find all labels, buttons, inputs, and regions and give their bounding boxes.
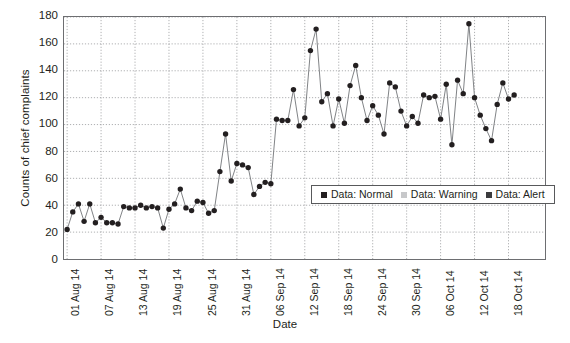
x-axis-title: Date [0, 318, 570, 331]
data-point[interactable] [76, 201, 81, 206]
data-point[interactable] [183, 205, 188, 210]
y-tick-label: 140 [30, 64, 58, 76]
data-point[interactable] [149, 204, 154, 209]
data-point[interactable] [461, 91, 466, 96]
y-tick-label: 40 [30, 200, 58, 212]
y-tick-label: 80 [30, 146, 58, 158]
data-point[interactable] [319, 99, 324, 104]
data-point[interactable] [483, 126, 488, 131]
data-point[interactable] [415, 121, 420, 126]
legend-entry[interactable]: Data: Normal [321, 189, 393, 200]
data-point[interactable] [359, 95, 364, 100]
data-point[interactable] [138, 203, 143, 208]
data-point[interactable] [308, 48, 313, 53]
data-point[interactable] [427, 95, 432, 100]
data-point[interactable] [172, 201, 177, 206]
y-tick-label: 20 [30, 227, 58, 239]
data-point[interactable] [421, 92, 426, 97]
data-point[interactable] [251, 192, 256, 197]
data-point[interactable] [404, 123, 409, 128]
legend-label: Data: Alert [496, 189, 545, 200]
data-point[interactable] [313, 26, 318, 31]
data-point[interactable] [330, 123, 335, 128]
x-tick-label: 06 Sep 14 [275, 254, 286, 316]
data-point[interactable] [325, 91, 330, 96]
data-point[interactable] [432, 94, 437, 99]
data-point[interactable] [257, 184, 262, 189]
data-point[interactable] [246, 165, 251, 170]
data-point[interactable] [87, 201, 92, 206]
x-tick-label: 24 Sep 14 [377, 254, 388, 316]
data-point[interactable] [393, 84, 398, 89]
data-point[interactable] [455, 78, 460, 83]
data-point[interactable] [489, 138, 494, 143]
data-point[interactable] [240, 162, 245, 167]
data-point[interactable] [438, 116, 443, 121]
data-point[interactable] [291, 87, 296, 92]
data-point[interactable] [161, 225, 166, 230]
data-point[interactable] [353, 63, 358, 68]
data-point[interactable] [370, 103, 375, 108]
data-point[interactable] [155, 205, 160, 210]
data-point[interactable] [376, 112, 381, 117]
data-point[interactable] [98, 215, 103, 220]
data-point[interactable] [144, 205, 149, 210]
x-tick-label: 07 Aug 14 [104, 254, 115, 316]
data-point[interactable] [121, 204, 126, 209]
data-point[interactable] [387, 80, 392, 85]
legend-entry[interactable]: Data: Warning [401, 189, 478, 200]
data-point[interactable] [217, 169, 222, 174]
data-point[interactable] [285, 118, 290, 123]
data-point[interactable] [206, 211, 211, 216]
data-point[interactable] [127, 205, 132, 210]
data-point[interactable] [274, 116, 279, 121]
data-point[interactable] [212, 208, 217, 213]
data-point[interactable] [449, 142, 454, 147]
data-point[interactable] [342, 121, 347, 126]
data-point[interactable] [223, 131, 228, 136]
data-point[interactable] [336, 96, 341, 101]
data-point[interactable] [444, 82, 449, 87]
x-tick-label: 12 Oct 14 [479, 254, 490, 316]
plot-area [63, 16, 546, 260]
data-point[interactable] [132, 205, 137, 210]
data-point[interactable] [478, 112, 483, 117]
legend-entry[interactable]: Data: Alert [486, 189, 545, 200]
data-point[interactable] [64, 227, 69, 232]
data-point[interactable] [472, 95, 477, 100]
data-point[interactable] [200, 200, 205, 205]
data-point[interactable] [398, 108, 403, 113]
data-point[interactable] [189, 208, 194, 213]
legend-label: Data: Normal [331, 189, 393, 200]
data-point[interactable] [262, 180, 267, 185]
data-point[interactable] [166, 207, 171, 212]
data-point[interactable] [115, 221, 120, 226]
data-point[interactable] [381, 131, 386, 136]
data-point[interactable] [195, 199, 200, 204]
data-point[interactable] [268, 181, 273, 186]
data-point[interactable] [81, 219, 86, 224]
plot-svg [64, 17, 545, 259]
data-point[interactable] [410, 114, 415, 119]
data-point[interactable] [93, 220, 98, 225]
data-point[interactable] [229, 178, 234, 183]
data-point[interactable] [110, 220, 115, 225]
x-tick-label: 30 Sep 14 [411, 254, 422, 316]
data-point[interactable] [466, 21, 471, 26]
data-point[interactable] [104, 220, 109, 225]
data-point[interactable] [511, 92, 516, 97]
data-point[interactable] [178, 186, 183, 191]
data-point[interactable] [364, 118, 369, 123]
data-point[interactable] [506, 96, 511, 101]
y-tick-label: 160 [30, 37, 58, 49]
data-point[interactable] [494, 102, 499, 107]
data-point[interactable] [296, 123, 301, 128]
x-tick-label: 13 Aug 14 [138, 254, 149, 316]
data-point[interactable] [500, 80, 505, 85]
data-point[interactable] [234, 161, 239, 166]
data-point[interactable] [70, 209, 75, 214]
data-point[interactable] [347, 83, 352, 88]
chart-legend[interactable]: Data: NormalData: WarningData: Alert [311, 185, 555, 204]
data-point[interactable] [279, 118, 284, 123]
data-point[interactable] [302, 115, 307, 120]
